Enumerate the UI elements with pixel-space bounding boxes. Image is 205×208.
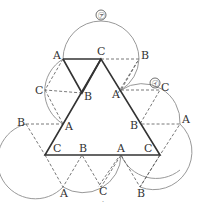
label-bottom-B: B [137, 187, 145, 200]
dashed-tri-bottom-double [98, 158, 118, 187]
arcs [0, 21, 192, 199]
label-right-A-inner: A [111, 88, 121, 101]
arc-right-upper [121, 84, 180, 124]
label-top-A: A [52, 49, 62, 62]
label-right-B-inner: B [130, 119, 138, 132]
label-base-A: A [116, 142, 126, 155]
diagram-svg: ㋐ ㋑ A C B C B B A A C B A C B A C A C B … [0, 0, 205, 208]
solid-triangles [45, 59, 160, 155]
arc-left-lower [0, 124, 63, 199]
solid-top-inner [63, 59, 101, 93]
dashed-tri-right-lower [140, 155, 160, 187]
dashed-tri-top-double [118, 62, 137, 93]
label-left-B: B [17, 116, 25, 129]
arc-bottom-right [121, 155, 180, 178]
label-base-C-left: C [53, 142, 61, 155]
arc-bottom-left [63, 155, 121, 193]
small-dot: · [102, 197, 105, 206]
label-left-B-inner: B [84, 90, 92, 103]
label-base-C-right: C [144, 142, 152, 155]
label-base-B: B [79, 142, 87, 155]
marker-i: ㋑ [152, 80, 159, 88]
label-right-C: C [161, 81, 169, 94]
labels: ㋐ ㋑ A C B C B B A A C B A C B A C A C B … [17, 10, 191, 206]
label-left-C: C [35, 84, 43, 97]
diagram-canvas: ㋐ ㋑ A C B C B B A A C B A C B A C A C B … [0, 0, 205, 208]
label-top-B: B [141, 49, 149, 62]
dashed-tri-left-upper [45, 59, 82, 93]
label-top-C: C [97, 45, 105, 58]
label-right-A: A [181, 113, 191, 126]
main-triangle [45, 59, 160, 155]
marker-a: ㋐ [98, 12, 105, 20]
label-bottom-A: A [59, 187, 69, 200]
dashed-tri-top [101, 59, 139, 90]
label-left-A-inner: A [64, 120, 74, 133]
